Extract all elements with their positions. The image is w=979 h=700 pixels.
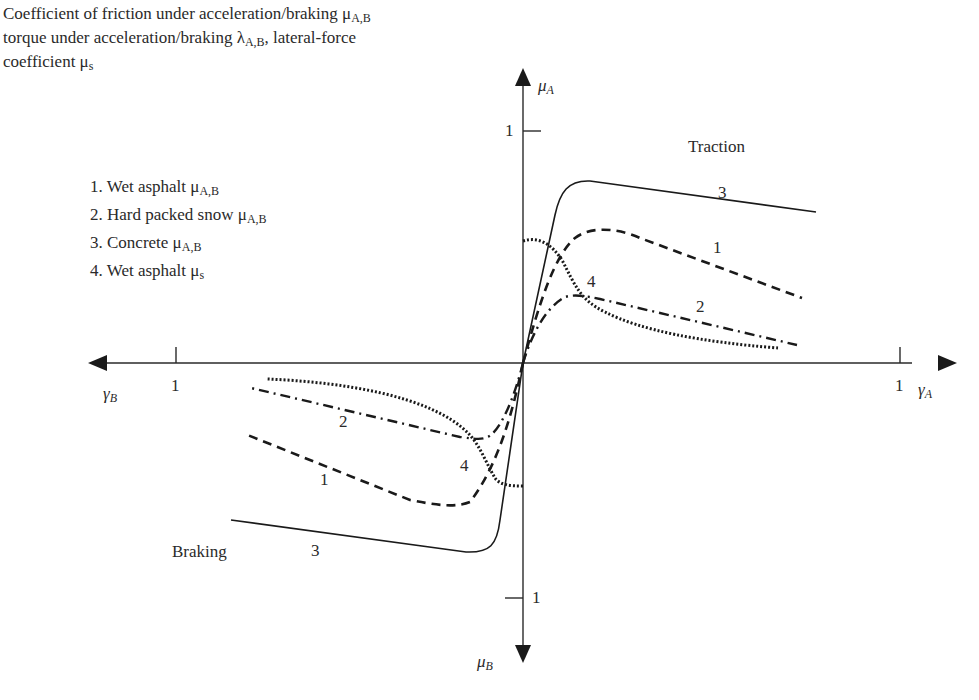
curve-3-traction: [523, 181, 816, 363]
tick-label-mu-a: 1: [505, 121, 514, 141]
axis-sub: B: [486, 659, 493, 673]
curve-label-2-traction: 2: [696, 297, 705, 317]
curve-label-4-braking: 4: [460, 456, 469, 476]
arrow-down-icon: [515, 645, 531, 663]
curve-label-3-traction: 3: [718, 183, 727, 203]
curve-label-4-traction: 4: [587, 272, 596, 292]
curve-2-braking: [251, 363, 523, 439]
curve-3-braking: [231, 363, 523, 552]
arrow-right-icon: [938, 355, 957, 371]
axis-label-gamma-b: γB: [103, 384, 117, 406]
friction-plot: [0, 0, 979, 700]
traction-label: Traction: [688, 137, 745, 157]
curve-label-3-braking: 3: [311, 541, 320, 561]
curve-1-traction: [523, 230, 802, 363]
curve-1-braking: [245, 363, 523, 505]
axis-symbol: μ: [477, 652, 486, 671]
axis-sub: A: [925, 387, 932, 401]
curve-label-1-traction: 1: [713, 238, 722, 258]
curve-2-snow: [251, 296, 797, 439]
curve-label-2-braking: 2: [339, 412, 348, 432]
braking-label: Braking: [172, 542, 227, 562]
tick-label-mu-b: 1: [532, 588, 541, 608]
curve-4-braking: [267, 379, 523, 486]
curve-2-traction: [523, 296, 797, 363]
arrow-left-icon: [88, 355, 107, 371]
axis-sub: A: [547, 83, 554, 97]
tick-label-gamma-a: 1: [895, 376, 904, 396]
axis-symbol: γ: [103, 384, 110, 403]
axis-label-gamma-a: γA: [918, 380, 932, 402]
axis-label-mu-a: μA: [538, 76, 554, 98]
axis-label-mu-b: μB: [477, 652, 493, 674]
tick-label-gamma-b: 1: [171, 376, 180, 396]
axis-sub: B: [110, 391, 117, 405]
axis-symbol: μ: [538, 76, 547, 95]
axis-symbol: γ: [918, 380, 925, 399]
curve-label-1-braking: 1: [320, 470, 329, 490]
axes: [100, 82, 912, 648]
arrow-up-icon: [515, 68, 531, 86]
